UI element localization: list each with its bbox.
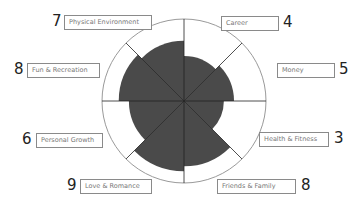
score-money: 5 (339, 61, 349, 78)
label-health-fitness: Health & Fitness (259, 132, 329, 147)
score-fun-recreation: 8 (14, 61, 24, 78)
label-friends-family: Friends & Family (217, 179, 296, 194)
label-love-romance: Love & Romance (80, 179, 152, 194)
label-career: Career (221, 16, 279, 31)
spokes (102, 19, 266, 183)
score-friends-family: 8 (301, 177, 311, 194)
score-physical-environment: 7 (52, 13, 62, 30)
label-money: Money (277, 63, 335, 78)
score-personal-growth: 6 (22, 131, 32, 148)
score-health-fitness: 3 (334, 130, 344, 147)
score-career: 4 (283, 14, 293, 31)
filled-sectors (119, 41, 234, 172)
score-love-romance: 9 (67, 177, 77, 194)
label-personal-growth: Personal Growth (36, 133, 103, 148)
label-fun-recreation: Fun & Recreation (27, 63, 100, 78)
label-physical-environment: Physical Environment (64, 15, 152, 30)
